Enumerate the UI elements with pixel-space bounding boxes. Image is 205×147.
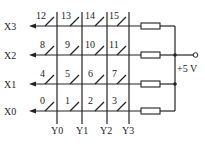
pullup-resistors (141, 23, 175, 114)
switch-icon (95, 75, 104, 84)
row-label-x1: X1 (4, 79, 16, 90)
arrow-left-icon (29, 82, 36, 87)
key-label: 8 (40, 39, 45, 50)
switch-icon (95, 17, 104, 26)
column-label-y2: Y2 (100, 125, 112, 136)
key-label: 2 (88, 95, 93, 106)
key-label: 4 (40, 68, 45, 79)
resistor-icon (141, 108, 160, 114)
switch-icon (117, 75, 126, 84)
terminal-icon (193, 53, 198, 58)
column-label-y3: Y3 (122, 125, 134, 136)
switch-icon (95, 46, 104, 55)
junction-dot-icon (173, 82, 177, 86)
column-label-y0: Y0 (51, 125, 63, 136)
switch-icon (70, 46, 79, 55)
key-label: 13 (61, 10, 71, 21)
arrow-left-icon (29, 53, 36, 58)
row-label-x3: X3 (4, 21, 16, 32)
resistor-icon (141, 23, 160, 29)
row-label-x0: X0 (4, 106, 16, 117)
column-label-y1: Y1 (76, 125, 88, 136)
switch-icon (45, 17, 54, 26)
arrow-left-icon (29, 24, 36, 29)
key-label: 11 (109, 39, 119, 50)
switch-icon (95, 102, 104, 111)
key-label: 9 (65, 39, 70, 50)
key-label: 0 (40, 95, 45, 106)
arrow-left-icon (29, 109, 36, 114)
key-label: 14 (85, 10, 95, 21)
key-label: 1 (65, 95, 70, 106)
switch-icon (45, 75, 54, 84)
key-label: 6 (88, 68, 93, 79)
key-label: 10 (85, 39, 95, 50)
switch-icon (117, 102, 126, 111)
key-label: 3 (112, 95, 117, 106)
switch-icon (45, 102, 54, 111)
key-label: 15 (109, 10, 119, 21)
resistor-icon (141, 81, 160, 87)
switch-icon (70, 102, 79, 111)
switch-icon (70, 75, 79, 84)
resistor-icon (141, 52, 160, 58)
supply-voltage-label: +5 V (177, 63, 198, 74)
row-label-x2: X2 (4, 50, 16, 61)
key-label: 7 (112, 68, 117, 79)
keypad-matrix-diagram: X3 X2 X1 X0 12 13 14 15 8 9 10 11 4 5 6 … (0, 0, 205, 147)
switch-icon (70, 17, 79, 26)
switch-icon (45, 46, 54, 55)
key-label: 5 (65, 68, 70, 79)
key-label: 12 (36, 10, 46, 21)
